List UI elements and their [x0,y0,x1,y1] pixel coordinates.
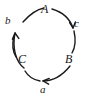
node-label-b-upper: B [65,53,72,65]
arc-right-lower [72,31,75,53]
cycle-diagram-figure: A B C a b c [0,0,88,111]
node-label-c-upper: C [18,53,26,65]
edge-label-b-lower: b [5,15,11,26]
edge-label-c-lower: c [74,18,79,29]
edge-path-c [52,9,73,28]
node-label-a-upper: A [41,3,48,15]
arc-bottom-left [25,71,40,81]
edge-label-a-lower: a [40,84,46,95]
